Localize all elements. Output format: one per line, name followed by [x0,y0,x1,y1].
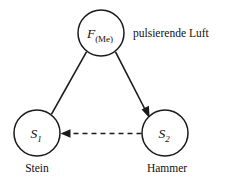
caption-s2-hammer: Hammer [147,162,187,174]
annotation-pulsierende-luft: pulsierende Luft [133,27,209,40]
edge-s2-to-s1-arrowhead [61,129,71,137]
edge-f-to-s1-line [52,52,87,114]
caption-s1-stein: Stein [25,162,49,174]
edge-f-to-s2 [116,52,150,119]
node-f-me[interactable]: F(Me) [78,10,124,56]
diagram-canvas: F(Me) S1 S2 Stein Hammer pulsierende Luf… [0,0,231,184]
node-s2[interactable]: S2 [142,110,188,156]
node-s1-subscript: 1 [37,134,42,144]
edge-s2-to-s1 [61,129,142,137]
edge-f-to-s2-line [116,52,146,111]
edge-f-to-s1 [52,52,87,114]
node-s1[interactable]: S1 [14,110,60,156]
node-f-me-subscript: (Me) [95,34,113,44]
node-s2-subscript: 2 [165,134,170,144]
diagram-svg: F(Me) S1 S2 Stein Hammer pulsierende Luf… [0,0,231,184]
